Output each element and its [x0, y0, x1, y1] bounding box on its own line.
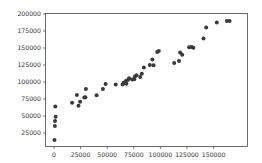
data-points [53, 19, 232, 142]
y-tick-label: 175000 [17, 27, 41, 34]
data-point [104, 82, 108, 86]
data-point [53, 119, 57, 123]
y-tick-label: 200000 [17, 10, 41, 17]
data-point [148, 63, 152, 67]
plot-frame [46, 14, 248, 147]
x-tick-label: 150000 [202, 151, 226, 158]
data-point [152, 63, 156, 67]
data-point [180, 53, 184, 57]
data-point [124, 82, 128, 86]
data-point [54, 115, 58, 119]
data-point [204, 26, 208, 30]
data-point [215, 21, 219, 25]
data-point [135, 73, 139, 77]
data-point [142, 65, 146, 69]
y-tick-label: 50000 [21, 112, 41, 119]
y-tick-label: 75000 [21, 95, 41, 102]
data-point [78, 100, 82, 104]
data-point [140, 72, 144, 76]
y-tick-label: 150000 [17, 44, 41, 51]
data-point [53, 138, 57, 142]
data-point [53, 105, 57, 109]
y-axis: 2500050000750001000001250001500001750002… [17, 10, 45, 136]
data-point [191, 46, 195, 50]
data-point [202, 37, 206, 41]
x-tick-label: 50000 [97, 151, 117, 158]
data-point [157, 49, 161, 53]
x-axis: 0250005000075000100000125000150000 [52, 147, 225, 159]
data-point [150, 58, 154, 62]
data-point [114, 82, 118, 86]
data-point [75, 93, 79, 97]
data-point [53, 124, 57, 128]
y-tick-label: 100000 [17, 78, 41, 85]
x-tick-label: 75000 [124, 151, 144, 158]
x-tick-label: 25000 [71, 151, 91, 158]
data-point [83, 95, 87, 99]
data-point [172, 61, 176, 65]
data-point [177, 59, 181, 63]
data-point [228, 19, 232, 23]
x-tick-label: 100000 [149, 151, 173, 158]
y-tick-label: 125000 [17, 61, 41, 68]
y-tick-label: 25000 [21, 129, 41, 136]
data-point [70, 101, 74, 105]
data-point [101, 87, 105, 91]
data-point [95, 93, 99, 97]
data-point [77, 104, 81, 108]
data-point [84, 87, 88, 91]
x-tick-label: 125000 [175, 151, 199, 158]
x-tick-label: 0 [52, 151, 56, 158]
scatter-chart: 0250005000075000100000125000150000 25000… [0, 0, 262, 163]
